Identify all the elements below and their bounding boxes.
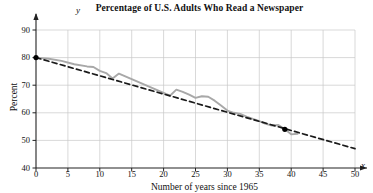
x-tick-label: 20	[154, 169, 174, 179]
y-tick-label: 70	[12, 80, 30, 90]
y-tick-label: 40	[12, 163, 30, 173]
chart-container: Percentage of U.S. Adults Who Read a New…	[0, 0, 373, 193]
y-tick-label: 80	[12, 52, 30, 62]
x-tick-label: 5	[58, 169, 78, 179]
y-tick-label: 90	[12, 25, 30, 35]
y-tick-label: 60	[12, 107, 30, 117]
data-point-marker	[33, 55, 38, 60]
x-axis-letter: x	[361, 160, 365, 170]
x-tick-label: 10	[90, 169, 110, 179]
y-axis-arrow	[33, 13, 38, 20]
x-tick-label: 25	[186, 169, 206, 179]
x-tick-label: 35	[249, 169, 269, 179]
x-tick-label: 15	[122, 169, 142, 179]
data-point-marker	[282, 127, 287, 132]
x-tick-label: 45	[313, 169, 333, 179]
x-tick-label: 40	[281, 169, 301, 179]
data-line	[36, 58, 298, 135]
x-tick-label: 30	[217, 169, 237, 179]
x-tick-label: 50	[345, 169, 365, 179]
y-axis-letter: y	[76, 5, 80, 15]
plot-area	[0, 0, 373, 193]
y-tick-label: 50	[12, 135, 30, 145]
